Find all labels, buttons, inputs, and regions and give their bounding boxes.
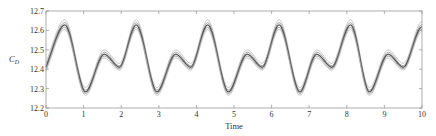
x-tick-label: 9 — [382, 110, 386, 119]
y-tick-label: 12.5 — [30, 46, 44, 55]
cd-time-chart: 012345678910 12.212.312.412.512.612.7 Ti… — [0, 0, 436, 136]
y-tick-label: 12.7 — [30, 7, 44, 16]
x-tick-label: 8 — [345, 110, 349, 119]
x-tick-label: 2 — [119, 110, 123, 119]
y-axis-label: CD — [9, 54, 20, 65]
y-axis-ticks: 12.212.312.412.512.612.7 — [30, 7, 422, 113]
y-tick-label: 12.2 — [30, 104, 44, 113]
x-axis-label: Time — [225, 121, 243, 131]
y-tick-label: 12.6 — [30, 26, 44, 35]
y-tick-label: 12.4 — [30, 65, 44, 74]
x-tick-label: 4 — [194, 110, 198, 119]
series-layer — [46, 20, 422, 96]
x-tick-label: 0 — [44, 110, 48, 119]
x-tick-label: 3 — [157, 110, 161, 119]
y-tick-label: 12.3 — [30, 85, 44, 94]
x-tick-label: 6 — [270, 110, 274, 119]
x-tick-label: 7 — [307, 110, 311, 119]
x-tick-label: 5 — [232, 110, 236, 119]
x-axis-ticks: 012345678910 — [44, 11, 426, 119]
y-axis-label-subscript: D — [14, 59, 20, 65]
x-tick-label: 10 — [418, 110, 426, 119]
x-tick-label: 1 — [82, 110, 86, 119]
